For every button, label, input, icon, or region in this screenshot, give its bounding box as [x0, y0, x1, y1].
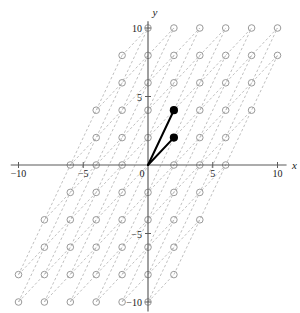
y-tick-label: −5	[131, 229, 142, 240]
x-axis-label: x	[291, 159, 297, 171]
figure-background	[0, 0, 300, 313]
y-tick-label: −10	[126, 297, 142, 308]
y-axis-label: y	[152, 6, 158, 18]
y-tick-label: 5	[137, 92, 142, 103]
y-tick-label: 10	[132, 23, 142, 34]
x-tick-label: 10	[273, 168, 283, 179]
origin-label: 0	[140, 168, 145, 179]
lattice-figure: −10−50510105−5−10xy	[0, 0, 300, 313]
basis-vector-endpoint	[170, 106, 178, 114]
x-tick-label: −5	[78, 168, 89, 179]
x-tick-label: −10	[11, 168, 27, 179]
basis-vector-endpoint	[170, 134, 178, 142]
x-tick-label: 5	[210, 168, 215, 179]
